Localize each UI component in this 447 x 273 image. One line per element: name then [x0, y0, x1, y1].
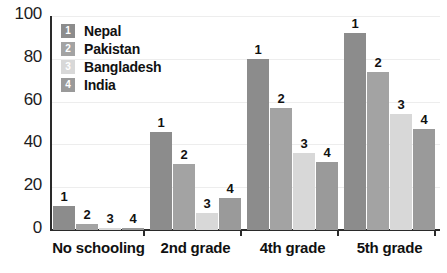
legend-item-india[interactable]: 4India	[61, 76, 161, 93]
bar[interactable]	[150, 132, 172, 230]
legend-swatch-icon: 1	[61, 24, 75, 38]
chart-legend: 1Nepal2Pakistan3Bangladesh4India	[61, 22, 161, 94]
bar-value-label: 2	[83, 207, 90, 222]
x-axis-tick	[240, 231, 242, 236]
bar-value-label: 4	[129, 211, 136, 226]
bar-value-label: 2	[374, 55, 381, 70]
bar-group: 1234	[150, 16, 241, 230]
legend-item-label: Bangladesh	[84, 59, 161, 75]
bar-value-label: 4	[420, 112, 427, 127]
bar[interactable]	[122, 228, 144, 230]
x-axis-category-label: 4th grade	[260, 239, 326, 256]
bar[interactable]	[99, 228, 121, 230]
legend-item-nepal[interactable]: 1Nepal	[61, 22, 161, 39]
legend-item-label: India	[84, 77, 116, 93]
bar[interactable]	[247, 59, 269, 230]
y-axis-tick-label: 80	[24, 47, 42, 67]
bar-value-label: 3	[300, 136, 307, 151]
y-axis-tick-label: 20	[24, 175, 42, 195]
y-axis-tick-label: 100	[15, 4, 42, 24]
bar[interactable]	[293, 153, 315, 230]
bar[interactable]	[53, 206, 75, 230]
bar[interactable]	[390, 114, 412, 230]
legend-item-bangladesh[interactable]: 3Bangladesh	[61, 58, 161, 75]
bar[interactable]	[413, 129, 435, 230]
bar-value-label: 1	[254, 42, 261, 57]
legend-swatch-icon: 2	[61, 42, 75, 56]
bar[interactable]	[344, 33, 366, 230]
bar[interactable]	[367, 72, 389, 230]
bar-value-label: 2	[180, 147, 187, 162]
y-axis: 020406080100	[0, 14, 46, 230]
x-axis-tick	[434, 231, 436, 236]
bar-group: 1234	[247, 16, 338, 230]
x-axis-category-label: 2nd grade	[161, 239, 231, 256]
bar[interactable]	[270, 108, 292, 230]
legend-swatch-icon: 4	[61, 78, 75, 92]
bar-value-label: 3	[397, 97, 404, 112]
legend-item-label: Nepal	[84, 23, 121, 39]
bar-value-label: 1	[351, 16, 358, 31]
bar-value-label: 4	[226, 181, 233, 196]
bar-value-label: 1	[157, 115, 164, 130]
bar[interactable]	[76, 224, 98, 230]
legend-item-pakistan[interactable]: 2Pakistan	[61, 40, 161, 57]
bar-value-label: 2	[277, 91, 284, 106]
y-axis-tick-label: 40	[24, 132, 42, 152]
bar-value-label: 3	[106, 211, 113, 226]
bar-group: 1234	[344, 16, 435, 230]
y-axis-tick-label: 60	[24, 90, 42, 110]
legend-item-label: Pakistan	[84, 41, 140, 57]
y-axis-tick-label: 0	[33, 218, 42, 238]
bar[interactable]	[196, 213, 218, 230]
x-axis-tick	[337, 231, 339, 236]
bar-value-label: 1	[60, 189, 67, 204]
bar[interactable]	[173, 164, 195, 230]
x-axis-category-label: 5th grade	[357, 239, 423, 256]
legend-swatch-icon: 3	[61, 60, 75, 74]
x-axis-tick	[143, 231, 145, 236]
bar[interactable]	[219, 198, 241, 230]
x-axis-category-label: No schooling	[52, 239, 145, 256]
bar-value-label: 3	[203, 196, 210, 211]
bar[interactable]	[316, 162, 338, 230]
bar-chart: 020406080100 1234123412341234 1Nepal2Pak…	[0, 0, 447, 273]
bar-value-label: 4	[323, 145, 330, 160]
